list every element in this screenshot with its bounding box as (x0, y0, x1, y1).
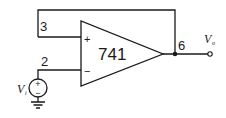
minus-symbol: − (84, 65, 90, 77)
plus-symbol: + (84, 33, 90, 45)
pin-6-label: 6 (178, 38, 185, 53)
vo-subscript: o (212, 40, 215, 46)
inverting-input-wire (38, 70, 81, 79)
source-minus: − (35, 88, 40, 98)
junction-dot (173, 52, 178, 57)
vi-subscript: i (25, 90, 27, 96)
ground-icon (31, 97, 45, 108)
opamp-label: 741 (98, 45, 126, 64)
pin-3-label: 3 (40, 19, 47, 34)
output-terminal (208, 52, 212, 56)
circuit-diagram: + − 3 2 6 + − 741 V o V i (0, 0, 226, 118)
pin-2-label: 2 (41, 54, 48, 69)
